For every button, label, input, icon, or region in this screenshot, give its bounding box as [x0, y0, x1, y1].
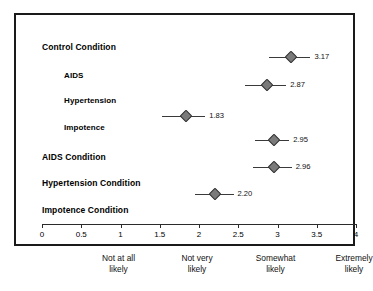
category-label: Hypertension: [64, 96, 116, 106]
x-axis-tick-label: 1.5: [154, 230, 165, 240]
scale-anchor-line2: likely: [181, 264, 212, 275]
x-axis-tick: [42, 224, 43, 228]
x-axis-tick-label: 2: [197, 230, 201, 240]
data-point-value-label: 3.17: [314, 52, 329, 61]
scale-anchor: Not verylikely: [181, 253, 212, 275]
scale-anchor: Somewhatlikely: [256, 253, 296, 275]
data-point-marker: [268, 161, 281, 174]
category-label: AIDS: [64, 71, 84, 81]
x-axis-tick-label: 3.5: [311, 230, 322, 240]
x-axis-tick: [199, 224, 200, 228]
data-point-value-label: 2.20: [238, 189, 253, 198]
scale-anchor-line2: likely: [102, 264, 135, 275]
x-axis-tick-label: 2.5: [233, 230, 244, 240]
scale-anchor-line1: Extremely: [335, 253, 372, 264]
x-axis-tick: [356, 224, 357, 228]
scale-anchor-line1: Not very: [181, 253, 212, 264]
category-label: Hypertension Condition: [42, 178, 141, 188]
x-axis-tick: [238, 224, 239, 228]
category-label: Impotence Condition: [42, 205, 128, 215]
x-axis-tick-label: 3: [275, 230, 279, 240]
category-label: Impotence: [64, 123, 105, 133]
scale-anchor: Not at alllikely: [102, 253, 135, 275]
scale-anchor: Extremelylikely: [335, 253, 372, 275]
x-axis-tick-label: 0: [40, 230, 44, 240]
x-axis-tick: [160, 224, 161, 228]
x-axis-tick: [121, 224, 122, 228]
x-axis-tick: [278, 224, 279, 228]
data-point-value-label: 2.96: [296, 162, 311, 171]
category-label: AIDS Condition: [42, 152, 106, 162]
scale-anchor-line2: likely: [256, 264, 296, 275]
category-label: Control Condition: [42, 42, 116, 52]
scale-anchor-line2: likely: [335, 264, 372, 275]
x-axis-tick-label: 1: [118, 230, 122, 240]
data-point-value-label: 2.87: [290, 80, 305, 89]
data-point-marker: [284, 51, 297, 64]
plot-frame: Control ConditionAIDS3.17Hypertension2.8…: [14, 13, 355, 246]
x-axis-tick-label: 0.5: [76, 230, 87, 240]
data-point-marker: [261, 79, 274, 92]
x-axis-tick: [317, 224, 318, 228]
scale-anchor-line1: Not at all: [102, 253, 135, 264]
data-point-value-label: 2.95: [293, 135, 308, 144]
scale-anchor-line1: Somewhat: [256, 253, 296, 264]
x-axis-tick-label: 4: [354, 230, 358, 240]
data-point-marker: [179, 110, 192, 123]
data-point-marker: [208, 188, 221, 201]
data-point-value-label: 1.83: [209, 111, 224, 120]
x-axis-tick: [81, 224, 82, 228]
likelihood-ratings-chart: Control ConditionAIDS3.17Hypertension2.8…: [0, 0, 373, 291]
data-point-marker: [267, 134, 280, 147]
